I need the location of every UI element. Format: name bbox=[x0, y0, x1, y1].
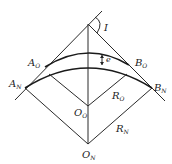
label-A-N: AN bbox=[8, 78, 22, 90]
arrow-down-icon bbox=[100, 62, 104, 65]
label-R-N: RN bbox=[115, 123, 130, 135]
geometry-diagram: I e AO AN BO BN OO ON RO RN bbox=[0, 0, 172, 164]
arc-old bbox=[45, 53, 129, 67]
radius-old-left bbox=[49, 74, 88, 106]
label-A-O: AO bbox=[27, 57, 40, 69]
diagram-canvas: I e AO AN BO BN OO ON RO RN bbox=[0, 0, 172, 164]
label-B-O: BO bbox=[134, 57, 147, 69]
label-O-O: OO bbox=[74, 107, 87, 119]
label-e: e bbox=[106, 55, 111, 64]
label-B-N: BN bbox=[153, 82, 167, 94]
label-I: I bbox=[103, 22, 109, 33]
arrow-up-icon bbox=[100, 55, 104, 58]
label-O-N: ON bbox=[82, 149, 96, 161]
deflection-angle-arc bbox=[95, 17, 100, 33]
label-R-O: RO bbox=[111, 90, 125, 102]
